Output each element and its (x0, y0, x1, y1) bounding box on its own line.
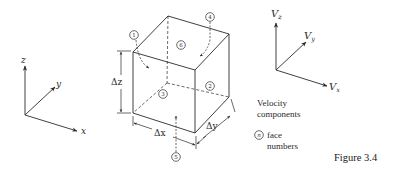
face-6-number: 6 (179, 42, 183, 48)
legend-face-line2: numbers (267, 141, 298, 151)
coordinate-axes (25, 66, 77, 131)
z-axis-label: z (20, 55, 26, 65)
vy-axis (276, 42, 306, 70)
x-axis (25, 115, 77, 131)
velocity-axes (276, 23, 327, 86)
legend-velocity-line2: components (257, 109, 301, 119)
face-5-number: 5 (174, 154, 178, 160)
face-pointers (136, 22, 210, 152)
dy-label: Δy (206, 121, 218, 131)
vy-label: Vy (304, 30, 315, 43)
face-1-pointer (136, 40, 149, 68)
legend-velocity-line1: Velocity (257, 98, 287, 108)
face-1-number: 1 (132, 32, 136, 38)
dz-label: Δz (111, 77, 122, 87)
cube-hidden-edges (133, 16, 229, 113)
vz-label: Vz (271, 8, 282, 21)
y-axis-label: y (55, 79, 62, 89)
face-3-number: 3 (161, 91, 165, 97)
dx-label: Δx (154, 128, 166, 138)
legend-face-symbol: n (257, 132, 261, 138)
face-4-number: 4 (208, 14, 212, 20)
legend-face-line1: face (267, 130, 282, 140)
vx-label: Vx (329, 81, 340, 94)
figure-caption: Figure 3.4 (334, 152, 377, 163)
face-2-number: 2 (208, 83, 212, 89)
y-axis (25, 87, 55, 115)
x-axis-label: x (81, 126, 86, 136)
vx-axis (276, 70, 327, 86)
cube-edges (133, 16, 229, 133)
figure-canvas: z y x Δz Δx Δy (0, 0, 400, 173)
